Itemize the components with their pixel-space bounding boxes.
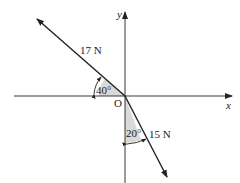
angle-20-label: 20° [126,127,141,139]
force-diagram: y x O 17 N 40° 15 N 20° [0,0,240,183]
diagram-canvas: y x O 17 N 40° 15 N 20° [0,0,240,183]
force-17n-vector [37,19,125,96]
angle-40-label: 40° [96,84,111,96]
force-17n-label: 17 N [80,44,102,56]
force-15n-label: 15 N [149,128,171,140]
x-axis-label: x [225,99,231,111]
origin-label: O [114,97,122,109]
y-axis-label: y [116,8,122,20]
